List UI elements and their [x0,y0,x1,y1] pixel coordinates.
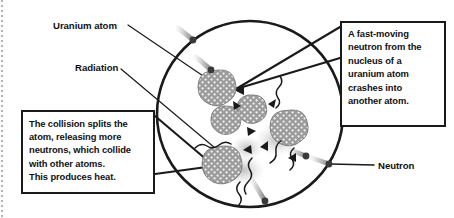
label-neutron: Neutron [378,160,414,171]
callout-right-line-2: neutron from the [348,40,440,53]
atom-atom-right [270,110,308,146]
callout-right-line-4: uranium atom [348,67,440,80]
atom-uranium-atom-struck [198,70,236,106]
callout-left-line-3: neutrons, which collide [29,143,149,156]
callout-left-line-5: This produces heat. [29,170,149,183]
neutron-neutron-outgoing-bottom [262,198,269,205]
callout-right-line-5: crashes into [348,81,440,94]
label-radiation: Radiation [75,62,118,73]
radiation-wave-1 [276,76,282,108]
radiation-wave-6 [237,182,242,206]
recoil-arrow-6 [288,153,296,162]
atom-atom-lower-left [202,146,242,184]
callout-left-line-2: atom, releasing more [29,130,149,143]
neutron-neutron-outgoing-right-inner [303,153,310,160]
leader-callout-right-lower [236,58,340,89]
trail-outgoing-bottom [252,180,265,201]
scan-edge-dotted-margin [1,0,3,218]
callout-right-line-6: another atom. [348,94,440,107]
leader-neutron [330,164,374,165]
callout-left-line-1: The collision splits the [29,117,149,130]
label-uranium-atom: Uranium atom [53,20,117,31]
neutron-neutron-incoming-top [190,37,197,44]
callout-right-line-3: nucleus of a [348,54,440,67]
callout-right-line-1: A fast-moving [348,27,440,40]
recoil-arrow-3 [247,127,256,136]
fission-diagram-figure: Uranium atom Radiation Neutron A fast-mo… [0,0,454,218]
callout-left-line-4: with other atoms. [29,157,149,170]
recoil-arrow-2 [268,99,276,108]
callout-box-collision-splits-atom: The collision splits the atom, releasing… [21,110,155,194]
neutron-neutron-incoming-upper [208,67,215,74]
neutron-neutron-outgoing-right-outer [326,161,333,168]
callout-box-fast-moving-neutron: A fast-moving neutron from the nucleus o… [340,21,446,127]
